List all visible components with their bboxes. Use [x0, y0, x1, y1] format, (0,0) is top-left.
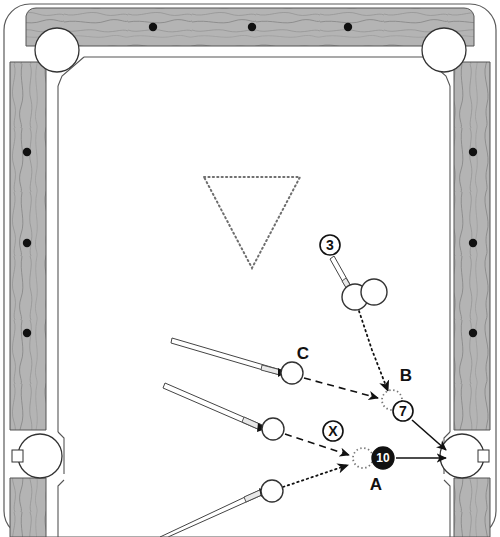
ball-cue-x[interactable]	[262, 418, 284, 440]
diamond-left-2	[23, 239, 31, 247]
label-point-b: B	[400, 366, 412, 385]
pocket-nub-left	[12, 450, 23, 462]
marker-3-label: 3	[326, 237, 334, 253]
diamond-right-2	[469, 239, 477, 247]
rail-left-lower	[10, 478, 46, 537]
marker-10-label: 10	[376, 451, 390, 465]
ghost-ball-a	[353, 448, 373, 468]
diamond-right-3	[469, 329, 477, 337]
label-point-a: A	[370, 475, 382, 494]
ball-cue-c[interactable]	[281, 362, 303, 384]
diamond-top-2	[248, 23, 256, 31]
diamond-left-1	[23, 148, 31, 156]
ball-cue-lower[interactable]	[261, 480, 283, 502]
marker-ball-7[interactable]: 7	[393, 401, 413, 421]
pool-table-diagram: 3 7 10 X C B A	[0, 0, 500, 537]
table-outer-edge	[4, 4, 496, 537]
diagram-canvas: 3 7 10 X C B A	[0, 0, 500, 537]
label-point-c: C	[297, 344, 309, 363]
marker-ball-3[interactable]: 3	[320, 235, 340, 255]
marker-7-label: 7	[399, 403, 407, 419]
marker-ball-10[interactable]: 10	[372, 447, 394, 469]
diamond-top-1	[149, 23, 157, 31]
pocket-nub-right	[478, 450, 489, 462]
ball-object-upper[interactable]	[361, 279, 387, 305]
diamond-left-3	[23, 329, 31, 337]
pocket-side-right[interactable]	[440, 434, 484, 478]
diamond-top-3	[344, 23, 352, 31]
table-frame	[4, 4, 496, 537]
diamond-right-1	[469, 148, 477, 156]
marker-ball-x[interactable]: X	[323, 421, 343, 441]
pocket-corner-top-right[interactable]	[422, 28, 466, 72]
pocket-side-left[interactable]	[18, 434, 62, 478]
rail-right-lower	[454, 478, 490, 537]
marker-x-label: X	[328, 423, 338, 439]
pocket-corner-top-left[interactable]	[35, 28, 79, 72]
